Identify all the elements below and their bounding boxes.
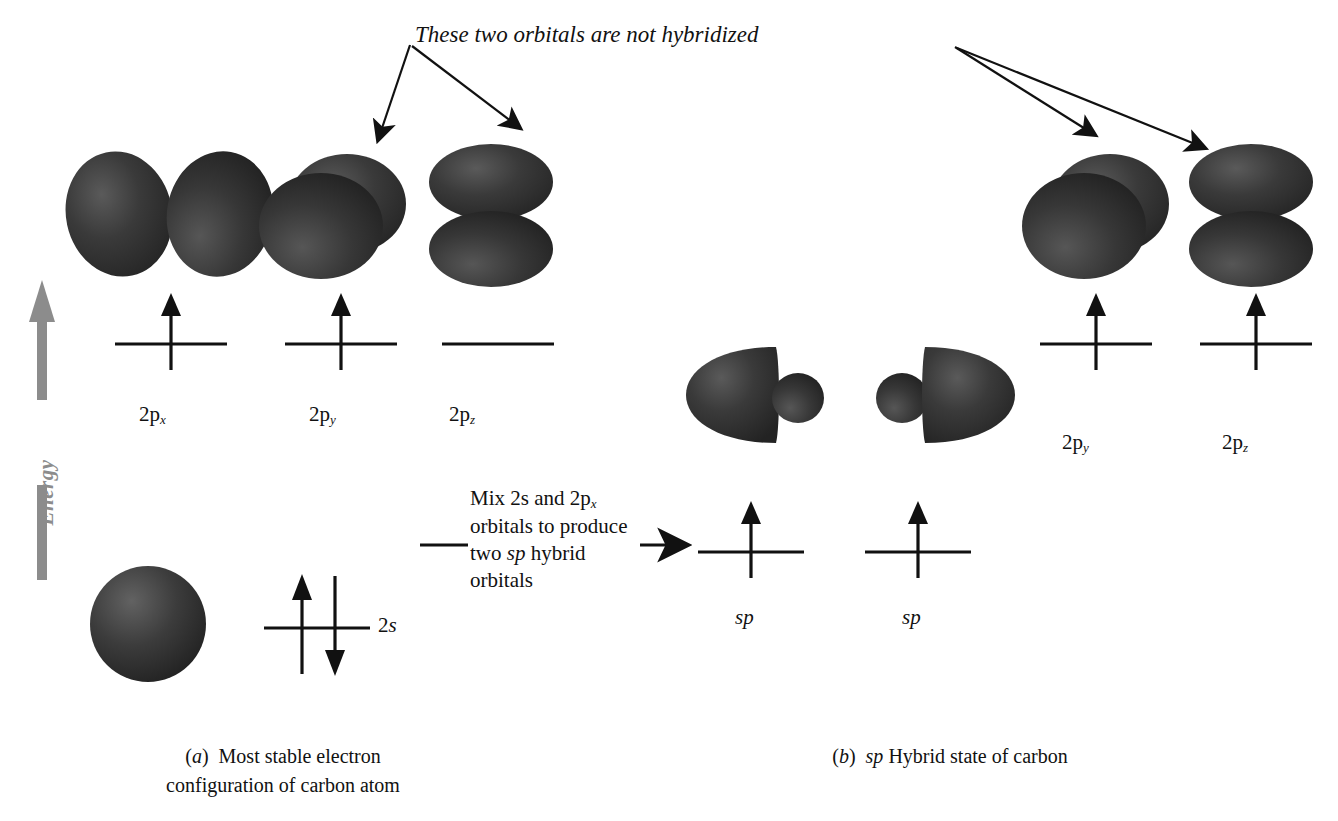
label-sp-2: sp xyxy=(902,605,921,630)
label-2py-base: 2p xyxy=(309,402,330,426)
caption-a-line2: configuration of carbon atom xyxy=(118,771,448,800)
label-2pz-right-sub: z xyxy=(1243,440,1248,455)
caption-a-marker: a xyxy=(192,745,202,767)
level-2py xyxy=(275,292,425,372)
orbital-2s-image xyxy=(88,564,208,684)
orbital-2py-image-right xyxy=(1018,150,1183,282)
label-2px: 2px xyxy=(139,402,166,428)
label-2py-right: 2py xyxy=(1062,430,1089,456)
orbital-2py-image xyxy=(255,150,420,282)
electron-arrow-up xyxy=(741,501,761,578)
caption-b-line1: (b) sp Hybrid state of carbon xyxy=(740,742,1160,771)
mix-line-1-text: Mix 2s and 2p xyxy=(470,486,591,510)
level-sp-1 xyxy=(688,500,838,580)
mix-line-1: Mix 2s and 2px xyxy=(470,485,627,513)
orbital-2px-image xyxy=(62,146,277,281)
label-2py-right-sub: y xyxy=(1083,440,1089,455)
label-2s-base: 2 xyxy=(378,613,389,637)
caption-b-sp: sp xyxy=(866,745,884,767)
level-2py-right xyxy=(1030,292,1180,372)
electron-arrow-up xyxy=(331,293,351,370)
level-2pz xyxy=(432,292,582,372)
electron-arrow-up xyxy=(1086,293,1106,370)
label-2pz: 2pz xyxy=(449,402,475,428)
label-sp-1-text: sp xyxy=(735,605,754,629)
label-2px-sub: x xyxy=(160,412,166,427)
caption-a: (a) Most stable electron configuration o… xyxy=(118,742,448,800)
note-pointer-arrows xyxy=(0,0,1338,160)
label-2s: 2s xyxy=(378,613,397,638)
electron-arrow-up xyxy=(292,574,312,674)
orbital-sp2-image xyxy=(845,341,1025,449)
caption-a-text1: Most stable electron xyxy=(219,745,381,767)
label-2pz-base: 2p xyxy=(449,402,470,426)
label-2py: 2py xyxy=(309,402,336,428)
label-2pz-right: 2pz xyxy=(1222,430,1248,456)
electron-arrow-up xyxy=(1246,293,1266,370)
electron-arrow-down xyxy=(325,576,345,676)
label-2pz-right-base: 2p xyxy=(1222,430,1243,454)
mix-line-4: orbitals xyxy=(470,567,627,594)
electron-arrow-up xyxy=(161,293,181,370)
level-2pz-right xyxy=(1190,292,1338,372)
mix-line-1-sub: x xyxy=(591,496,597,511)
energy-axis-label: Energy xyxy=(34,443,59,543)
level-sp-2 xyxy=(855,500,1005,580)
label-2py-sub: y xyxy=(330,412,336,427)
caption-b-post: Hybrid state of carbon xyxy=(883,745,1067,767)
mix-arrow-icon xyxy=(418,533,698,557)
orbital-2pz-image xyxy=(422,142,562,287)
electron-arrow-up xyxy=(908,501,928,578)
label-2pz-sub: z xyxy=(470,412,475,427)
label-2s-sub: s xyxy=(389,613,397,637)
caption-a-line1: (a) Most stable electron xyxy=(118,742,448,771)
caption-b: (b) sp Hybrid state of carbon xyxy=(740,742,1160,771)
caption-b-marker: b xyxy=(839,745,849,767)
label-2py-right-base: 2p xyxy=(1062,430,1083,454)
label-2px-base: 2p xyxy=(139,402,160,426)
label-sp-2-text: sp xyxy=(902,605,921,629)
label-sp-1: sp xyxy=(735,605,754,630)
orbital-sp1-image xyxy=(680,341,860,449)
level-2px xyxy=(105,292,255,372)
orbital-2pz-image-right xyxy=(1182,142,1322,287)
